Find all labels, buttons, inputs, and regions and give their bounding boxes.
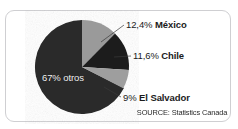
pie-label-otros: 67% otros — [42, 73, 84, 83]
pie-label-mexico-name: México — [155, 19, 187, 30]
pie-label-el-salvador-name: El Salvador — [139, 92, 190, 103]
pie-label-el-salvador: 9% El Salvador — [123, 93, 190, 103]
pie-slices — [35, 20, 129, 114]
pie-chart-figure: 12,4% México 11,6% Chile 9% El Salvador … — [0, 0, 238, 129]
pie-label-el-salvador-percent: 9% — [123, 92, 137, 103]
pie-label-chile: 11,6% Chile — [133, 51, 184, 61]
source-credit: SOURCE: Statistics Canada — [137, 108, 227, 117]
pie-label-mexico: 12,4% México — [126, 20, 187, 30]
pie-label-chile-percent: 11,6% — [133, 50, 159, 61]
pie-label-mexico-percent: 12,4% — [126, 19, 152, 30]
pie-label-chile-name: Chile — [161, 50, 184, 61]
